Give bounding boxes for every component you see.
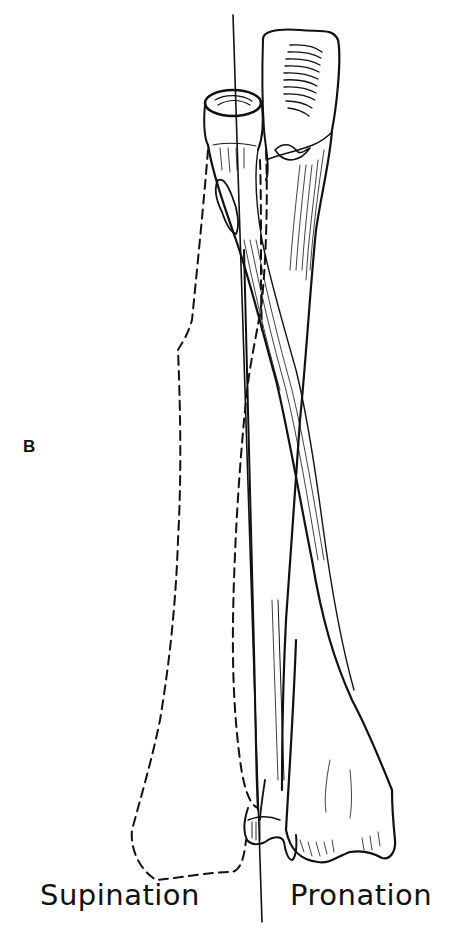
forearm-rotation-illustration: B Supination Pronation: [0, 0, 461, 932]
radius-pronated: [204, 90, 395, 862]
bone-drawing: [0, 0, 461, 932]
caption-pronation: Pronation: [290, 878, 432, 912]
panel-label: B: [23, 437, 35, 457]
radius-head: [205, 90, 261, 116]
caption-supination: Supination: [40, 878, 200, 912]
radius-supinated-outline: [132, 150, 267, 880]
